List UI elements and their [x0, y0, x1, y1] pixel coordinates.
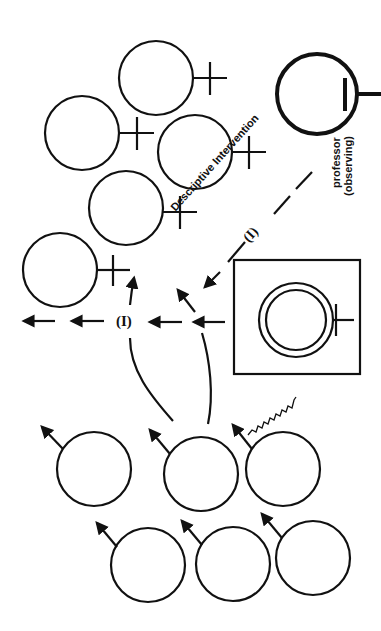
- female-symbol: [119, 41, 227, 115]
- professor-label-line1: professor: [330, 136, 342, 196]
- curve-to-center: [130, 338, 173, 421]
- wavy-signal-line: [248, 397, 296, 435]
- professor-label-line2: (observing): [342, 136, 354, 196]
- male-symbol: [262, 514, 350, 595]
- curve-to-right: [202, 333, 211, 424]
- professor-label: professor (observing): [330, 136, 354, 196]
- intervention-arrow: [205, 172, 312, 287]
- arrow-marker: (I): [116, 313, 132, 330]
- male-symbol: [182, 521, 270, 601]
- male-symbol: [150, 430, 238, 511]
- professor-symbol: [277, 54, 381, 134]
- diagram-canvas: Descriptive Intervention (I) (I) profess…: [0, 0, 381, 631]
- male-symbol: [97, 523, 185, 602]
- female-symbol: [45, 96, 154, 170]
- male-symbol: [233, 425, 320, 506]
- boxed-female-symbol: [234, 260, 360, 374]
- diagram-svg: [0, 0, 381, 631]
- male-symbol: [42, 427, 131, 506]
